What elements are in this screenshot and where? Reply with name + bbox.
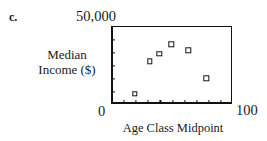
data-point-marker (132, 91, 137, 96)
y-axis-title-line-2: Income ($) (26, 62, 108, 77)
data-point-marker (169, 41, 174, 46)
y-axis-tick (112, 39, 115, 40)
x-axis-max-label: 100 (236, 103, 258, 118)
y-axis-min-label: 0 (98, 104, 105, 119)
plot-area (112, 27, 231, 103)
plot-frame (111, 26, 232, 104)
x-axis-tick (208, 100, 209, 103)
y-axis-tick (112, 52, 115, 53)
y-axis-tick (112, 91, 115, 92)
x-axis-tick (160, 100, 161, 103)
y-axis-tick (112, 78, 115, 79)
x-axis-tick (148, 100, 149, 103)
x-axis-tick (220, 100, 221, 103)
x-axis-tick (123, 100, 124, 103)
scatter-plot-figure: c. 50,000 Median Income ($) 0 100 Age Cl… (0, 0, 267, 141)
y-axis-tick (112, 65, 115, 66)
data-point-marker (147, 59, 152, 64)
y-axis-title: Median Income ($) (26, 47, 108, 77)
panel-letter: c. (9, 11, 17, 23)
x-axis-tick (172, 100, 173, 103)
x-axis-tick (136, 100, 137, 103)
y-axis-max-label: 50,000 (76, 9, 116, 24)
y-axis-title-line-1: Median (26, 47, 108, 62)
x-axis-title: Age Class Midpoint (112, 122, 234, 135)
x-axis-tick (196, 100, 197, 103)
data-point-marker (156, 51, 161, 56)
data-point-marker (186, 48, 191, 53)
data-point-marker (204, 76, 209, 81)
x-axis-tick (184, 100, 185, 103)
